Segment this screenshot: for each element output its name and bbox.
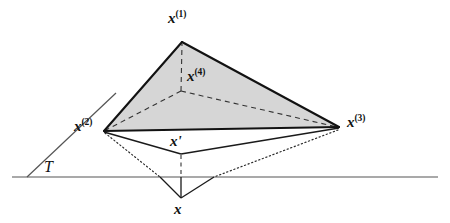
vertex-label-x1-sup: (1) bbox=[176, 9, 187, 19]
vertex-label-x3: x(3) bbox=[347, 114, 365, 130]
shaded-face-x1-x2-x3 bbox=[104, 42, 339, 131]
figure-container: x(1) x(2) x(3) x(4) x' x T bbox=[0, 0, 450, 223]
vertex-label-x4-base: x bbox=[187, 68, 195, 84]
prime-mark: ' bbox=[178, 133, 182, 149]
plane-label-T: T bbox=[44, 159, 53, 175]
dotted-ray-x3-to-x bbox=[214, 130, 338, 177]
plane-diagonal-line bbox=[27, 93, 116, 177]
solid-ray-x2-to-x-below-plane bbox=[160, 177, 181, 198]
vertex-label-x3-base: x bbox=[347, 114, 355, 130]
vertex-label-x3-sup: (3) bbox=[355, 113, 366, 123]
solid-edge-x3-xprime bbox=[181, 128, 339, 154]
vertex-label-x-prime: x' bbox=[170, 133, 182, 149]
vertex-label-x2: x(2) bbox=[74, 118, 92, 134]
vertex-label-x4: x(4) bbox=[187, 68, 205, 84]
solid-ray-x3-to-x-below-plane bbox=[181, 177, 214, 198]
vertex-label-x-prime-base: x bbox=[170, 133, 178, 149]
vertex-label-x2-base: x bbox=[74, 118, 82, 134]
vertex-label-x4-sup: (4) bbox=[195, 67, 206, 77]
vertex-label-x: x bbox=[174, 201, 182, 217]
vertex-label-x1: x(1) bbox=[168, 10, 186, 26]
tetrahedron-projection-diagram bbox=[0, 0, 450, 223]
vertex-label-x1-base: x bbox=[168, 10, 176, 26]
vertex-label-x-base: x bbox=[174, 201, 182, 217]
vertex-label-x2-sup: (2) bbox=[82, 117, 93, 127]
